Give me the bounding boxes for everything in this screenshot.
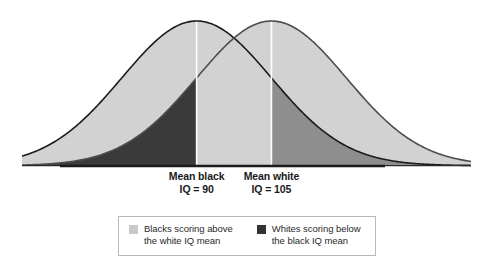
legend-blacks-line1: Blacks scoring above [144,223,233,235]
legend-swatch-light-icon [129,225,138,234]
legend-whites-line1: Whites scoring below [272,223,361,235]
white-mean-label-line1: Mean white [215,170,327,183]
iq-distribution-figure: Mean black IQ = 90 Mean white IQ = 105 B… [0,0,493,270]
mean-annotations: Mean black IQ = 90 Mean white IQ = 105 [0,170,493,206]
legend-whites-line2: the black IQ mean [272,235,361,247]
legend-swatch-dark-icon [257,225,266,234]
legend-blacks-line2: the white IQ mean [144,235,233,247]
legend-entry-whites-below-text: Whites scoring below the black IQ mean [272,223,361,246]
chart-legend: Blacks scoring above the white IQ mean W… [118,216,376,256]
legend-entry-whites-below: Whites scoring below the black IQ mean [257,223,375,246]
legend-entry-blacks-above-text: Blacks scoring above the white IQ mean [144,223,233,246]
white-mean-label-line2: IQ = 105 [215,183,327,196]
white-mean-label: Mean white IQ = 105 [215,170,327,196]
legend-entry-blacks-above: Blacks scoring above the white IQ mean [129,223,257,246]
